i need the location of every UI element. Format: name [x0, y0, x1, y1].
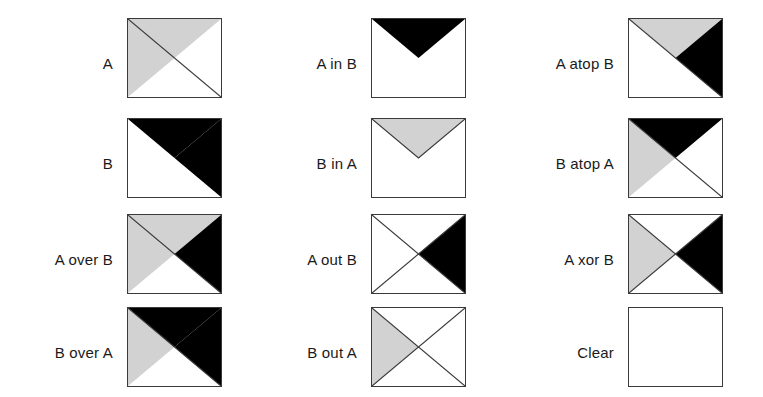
composite-label-b-out-a: B out A — [157, 345, 357, 360]
composite-label-b-over-a: B over A — [0, 345, 113, 360]
composite-box-b-atop-a — [628, 118, 723, 198]
composite-box-a-xor-b — [628, 214, 723, 294]
region-a-only — [629, 215, 676, 293]
composite-label-b: B — [0, 156, 113, 171]
composite-box-clear — [628, 307, 723, 387]
composite-box-a-atop-b — [628, 18, 723, 98]
region-b-only — [676, 215, 723, 293]
composite-label-b-atop-a: B atop A — [414, 156, 614, 171]
composite-label-a-atop-b: A atop B — [414, 56, 614, 71]
composite-label-clear: Clear — [414, 345, 614, 360]
composite-label-a: A — [0, 56, 113, 71]
region-a-only — [372, 308, 419, 386]
composite-label-a-over-b: A over B — [0, 252, 113, 267]
composite-label-a-xor-b: A xor B — [414, 252, 614, 267]
composite-label-a-in-b: A in B — [157, 56, 357, 71]
composite-label-a-out-b: A out B — [157, 252, 357, 267]
region-intersection — [372, 19, 465, 58]
composite-label-b-in-a: B in A — [157, 156, 357, 171]
region-intersection — [372, 119, 465, 158]
porter-duff-figure: ABA over BB over AA in BB in AA out BB o… — [0, 0, 763, 397]
